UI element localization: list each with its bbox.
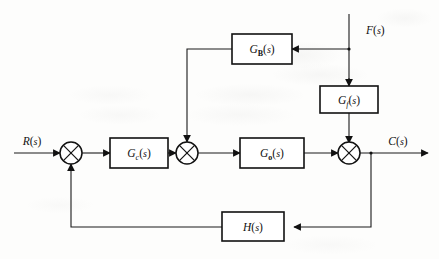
summing-junction-3[interactable]	[338, 142, 360, 164]
block-h-label: H(s)	[242, 221, 263, 234]
label-disturbance-input: F(s)	[365, 24, 385, 37]
label-output: C(s)	[388, 135, 407, 148]
wire-h-to-sum1	[71, 164, 222, 227]
control-block-diagram: GB(s) Gf(s) Gc(s) Go(s) H(s)	[0, 0, 439, 259]
branch-point-disturbance	[347, 47, 350, 50]
wire-gb-to-sum2	[187, 49, 232, 142]
summing-junction-1[interactable]	[60, 142, 82, 164]
summing-junction-2[interactable]	[176, 142, 198, 164]
branch-point-output	[369, 151, 372, 154]
wire-output-to-h	[294, 153, 371, 227]
block-diagram-page: GB(s) Gf(s) Gc(s) Go(s) H(s)	[0, 0, 439, 259]
label-reference-input: R(s)	[22, 135, 42, 148]
